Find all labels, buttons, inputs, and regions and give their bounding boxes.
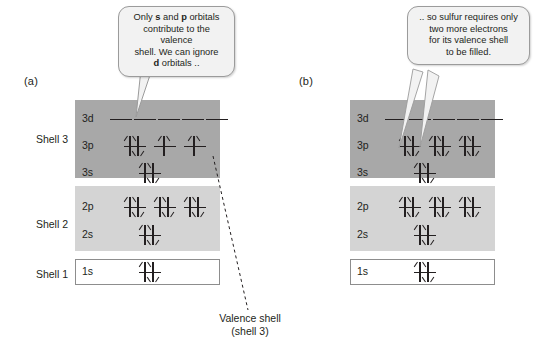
orbital-bar: [385, 119, 407, 120]
orbital-label-2p: 2p: [82, 200, 94, 212]
orbital-label-3p: 3p: [82, 139, 94, 151]
orbital-slot: [152, 196, 178, 218]
panel-b-row-2s: 2s: [357, 224, 497, 246]
orbital-bar: [433, 119, 455, 120]
electron-arrow-down: [148, 162, 158, 184]
orbital-bar: [481, 119, 503, 120]
panel-a-slots-3d: [108, 108, 228, 130]
panel-a-slots-1s: [137, 261, 167, 283]
electron-arrow-up: [189, 135, 199, 157]
orbital-bar: [457, 119, 479, 120]
orbital-bar: [110, 119, 132, 120]
callout-a: Only s and p orbitals contribute to the …: [118, 6, 235, 77]
figure-canvas: (a) Shell 3 Shell 2 Shell 1 3d 3p: [0, 0, 551, 349]
panel-a-row-1s: 1s: [82, 261, 222, 283]
electron-arrow-down: [468, 196, 478, 218]
panel-a-row-2p: 2p: [82, 196, 222, 218]
callout-a-l4b: orbitals ..: [159, 58, 199, 68]
panel-b-slots-3d: [383, 108, 503, 130]
orbital-slot: [383, 108, 409, 130]
panel-b-slots-1s: [412, 261, 442, 283]
electron-arrow-down: [148, 261, 158, 283]
callout-b-line3: for its valence shell: [415, 35, 522, 47]
electron-arrow-down: [423, 224, 433, 246]
shell-label-1: Shell 1: [6, 268, 68, 280]
orbital-slot: [182, 196, 208, 218]
callout-a-l1c: and: [160, 12, 181, 22]
orbital-label-2s: 2s: [82, 228, 93, 240]
orbital-label-3d: 3d: [82, 112, 94, 124]
orbital-slot: [412, 261, 438, 283]
orbital-slot: [397, 196, 423, 218]
orbital-label-2p: 2p: [357, 200, 369, 212]
orbital-slot: [182, 135, 208, 157]
orbital-bar: [206, 119, 228, 120]
electron-arrow-down: [468, 135, 478, 157]
orbital-slot: [457, 196, 483, 218]
callout-b-line2: two more electrons: [415, 24, 522, 36]
orbital-slot: [412, 162, 438, 184]
orbital-slot: [407, 108, 433, 130]
orbital-label-1s: 1s: [357, 265, 368, 277]
callout-b: .. so sulfur requires only two more elec…: [407, 6, 530, 65]
orbital-slot: [431, 108, 457, 130]
orbital-bar: [158, 119, 180, 120]
shell-label-3: Shell 3: [6, 133, 68, 145]
orbital-slot: [397, 135, 423, 157]
orbital-label-3p: 3p: [357, 139, 369, 151]
panel-b-slots-2s: [412, 224, 442, 246]
panel-b-row-1s: 1s: [357, 261, 497, 283]
callout-a-line3: shell. We can ignore: [126, 47, 227, 59]
orbital-slot: [412, 224, 438, 246]
orbital-slot: [137, 261, 163, 283]
orbital-slot: [132, 108, 158, 130]
panel-a-slots-3s: [137, 162, 167, 184]
panel-a-letter: (a): [24, 75, 38, 87]
orbital-label-3s: 3s: [82, 166, 93, 178]
panel-a-slots-2s: [137, 224, 167, 246]
orbital-slot: [455, 108, 481, 130]
panel-b-slots-3s: [412, 162, 442, 184]
panel-b-row-3d: 3d: [357, 108, 497, 130]
orbital-slot: [427, 135, 453, 157]
panel-a-slots-2p: [122, 196, 212, 218]
electron-arrow-down: [438, 135, 448, 157]
electron-arrow-up: [159, 135, 169, 157]
panel-b-slots-3p: [397, 135, 487, 157]
panel-a-slots-3p: [122, 135, 212, 157]
orbital-slot: [427, 196, 453, 218]
panel-b-row-3p: 3p: [357, 135, 497, 157]
panel-b-letter: (b): [299, 75, 313, 87]
electron-arrow-down: [133, 135, 143, 157]
orbital-slot: [122, 196, 148, 218]
panel-a-row-3p: 3p: [82, 135, 222, 157]
electron-arrow-down: [133, 196, 143, 218]
callout-b-line4: to be filled.: [415, 47, 522, 59]
orbital-bar: [134, 119, 156, 120]
callout-b-line1: .. so sulfur requires only: [415, 12, 522, 24]
electron-arrow-down: [148, 224, 158, 246]
orbital-label-1s: 1s: [82, 265, 93, 277]
orbital-bar: [182, 119, 204, 120]
electron-arrow-down: [193, 196, 203, 218]
orbital-slot: [457, 135, 483, 157]
callout-a-l1e: orbitals: [187, 12, 220, 22]
orbital-slot: [156, 108, 182, 130]
electron-arrow-down: [408, 135, 418, 157]
panel-a-row-3s: 3s: [82, 162, 222, 184]
electron-arrow-down: [163, 196, 173, 218]
electron-arrow-down: [423, 162, 433, 184]
orbital-slot: [479, 108, 505, 130]
panel-a-row-3d: 3d: [82, 108, 222, 130]
orbital-slot: [152, 135, 178, 157]
panel-b-slots-2p: [397, 196, 487, 218]
orbital-slot: [108, 108, 134, 130]
panel-b-row-2p: 2p: [357, 196, 497, 218]
orbital-slot: [204, 108, 230, 130]
electron-arrow-down: [408, 196, 418, 218]
callout-a-line1: Only s and p orbitals: [126, 12, 227, 24]
shell-label-2: Shell 2: [6, 218, 68, 230]
orbital-bar: [409, 119, 431, 120]
orbital-label-2s: 2s: [357, 228, 368, 240]
callout-a-line2: contribute to the valence: [126, 24, 227, 47]
